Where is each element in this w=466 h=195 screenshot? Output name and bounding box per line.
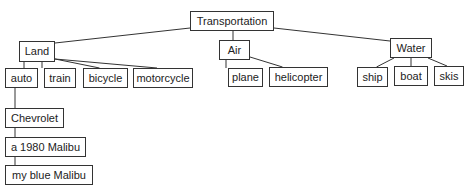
node-plane: plane [228,68,263,87]
edge-land-bicycle [55,59,100,68]
node-water: Water [390,38,432,58]
edge-air-helicopter [250,57,283,67]
node-auto: auto [5,68,38,88]
node-bicycle: bicycle [83,68,128,88]
edge-transportation-land [55,28,190,43]
node-my-blue-malibu: my blue Malibu [5,165,93,185]
node-land: Land [19,41,55,62]
node-helicopter: helicopter [269,67,328,87]
node-train: train [44,68,76,88]
node-skis: skis [434,66,464,86]
node-transportation: Transportation [190,11,274,31]
node-chevrolet: Chevrolet [5,108,64,128]
node-ship: ship [357,67,388,87]
node-motorcycle: motorcycle [133,68,193,88]
edge-water-ship [377,58,395,67]
edge-transportation-water [274,28,390,41]
edge-land-motorcycle [55,59,157,68]
edge-water-skis [428,58,447,66]
node-boat: boat [394,66,428,86]
node-air: Air [219,40,250,60]
node-a-1980-malibu: a 1980 Malibu [5,137,86,157]
